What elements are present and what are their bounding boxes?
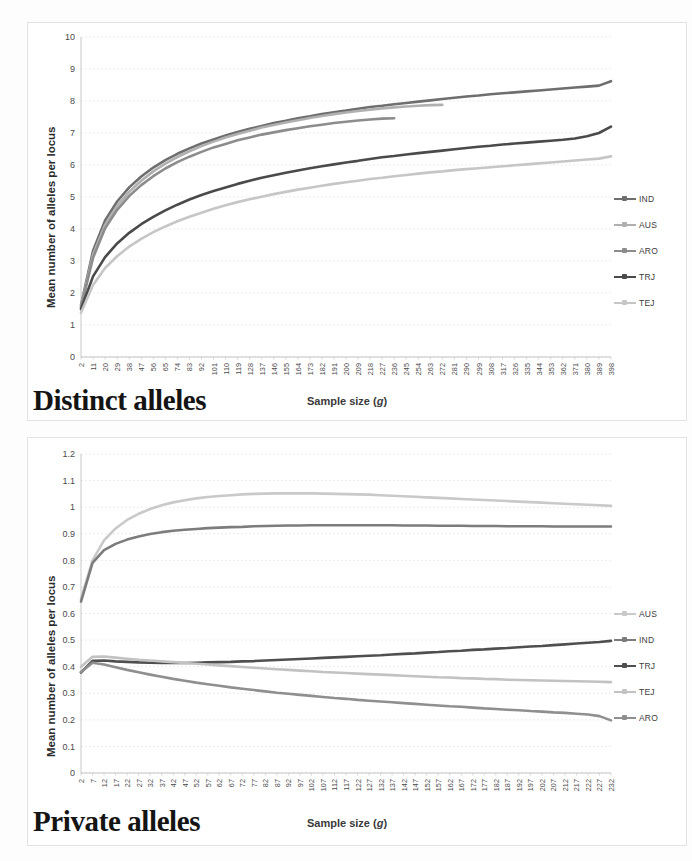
svg-text:5: 5	[70, 192, 75, 202]
svg-text:152: 152	[423, 779, 432, 791]
svg-text:29: 29	[113, 363, 122, 371]
svg-text:7: 7	[70, 128, 75, 138]
chart-private-alleles: 00.10.20.30.40.50.60.70.80.911.11.227121…	[27, 437, 687, 846]
svg-text:67: 67	[227, 779, 236, 787]
svg-text:17: 17	[112, 779, 121, 787]
svg-text:182: 182	[318, 363, 327, 375]
legend-label: TEJ	[639, 687, 655, 697]
svg-text:107: 107	[319, 779, 328, 791]
svg-text:42: 42	[169, 779, 178, 787]
svg-text:52: 52	[192, 779, 201, 787]
svg-text:6: 6	[70, 160, 75, 170]
svg-text:308: 308	[487, 363, 496, 375]
svg-text:202: 202	[538, 779, 547, 791]
svg-text:110: 110	[222, 363, 231, 375]
svg-text:22: 22	[123, 779, 132, 787]
svg-text:172: 172	[469, 779, 478, 791]
legend-label: AUS	[639, 609, 657, 619]
svg-text:0.1: 0.1	[62, 742, 75, 752]
legend-item[interactable]: AUS	[614, 601, 658, 627]
svg-text:0: 0	[70, 352, 75, 362]
svg-text:326: 326	[511, 363, 520, 375]
svg-text:142: 142	[400, 779, 409, 791]
svg-text:56: 56	[149, 363, 158, 371]
y-axis-title-private: Mean number of alleles per locus	[45, 576, 57, 758]
svg-text:0.8: 0.8	[62, 556, 75, 566]
svg-text:117: 117	[342, 779, 351, 791]
svg-text:0.3: 0.3	[62, 688, 75, 698]
legend-line-icon	[614, 635, 636, 645]
svg-text:1.1: 1.1	[62, 476, 75, 486]
svg-text:12: 12	[100, 779, 109, 787]
legend-line-icon	[614, 246, 636, 256]
legend-line-icon	[614, 687, 636, 697]
svg-text:212: 212	[561, 779, 570, 791]
legend-item[interactable]: TEJ	[614, 679, 658, 705]
legend-line-icon	[614, 194, 636, 204]
svg-text:335: 335	[523, 363, 532, 375]
legend-item[interactable]: TRJ	[614, 653, 658, 679]
svg-text:164: 164	[294, 363, 303, 375]
svg-text:299: 299	[475, 363, 484, 375]
svg-text:47: 47	[181, 779, 190, 787]
legend-item[interactable]: ARO	[614, 705, 658, 731]
svg-text:3: 3	[70, 256, 75, 266]
panel-caption-distinct: Distinct alleles	[33, 384, 206, 417]
svg-text:83: 83	[185, 363, 194, 371]
svg-text:0: 0	[70, 768, 75, 778]
svg-text:209: 209	[354, 363, 363, 375]
legend-label: TRJ	[639, 661, 655, 671]
legend-item[interactable]: AUS	[614, 212, 658, 238]
svg-text:10: 10	[65, 32, 75, 42]
svg-text:65: 65	[161, 363, 170, 371]
svg-text:197: 197	[526, 779, 535, 791]
svg-text:227: 227	[595, 779, 604, 791]
x-axis-title-distinct-text: Sample size (g)	[307, 395, 387, 407]
svg-text:74: 74	[173, 363, 182, 371]
legend-item[interactable]: ARO	[614, 238, 658, 264]
svg-text:0.2: 0.2	[62, 715, 75, 725]
chart-distinct-alleles: 0123456789102112029384756657483921011101…	[27, 22, 687, 421]
legend-item[interactable]: IND	[614, 186, 658, 212]
legend-item[interactable]: TRJ	[614, 264, 658, 290]
svg-text:157: 157	[434, 779, 443, 791]
svg-text:272: 272	[438, 363, 447, 375]
svg-text:2: 2	[77, 779, 86, 783]
legend-private: AUS IND TRJ TEJ ARO	[614, 601, 658, 731]
svg-text:192: 192	[515, 779, 524, 791]
svg-text:182: 182	[492, 779, 501, 791]
svg-text:38: 38	[125, 363, 134, 371]
svg-text:11: 11	[89, 363, 98, 371]
svg-text:7: 7	[89, 779, 98, 783]
svg-text:92: 92	[284, 779, 293, 787]
svg-text:0.5: 0.5	[62, 635, 75, 645]
svg-text:132: 132	[377, 779, 386, 791]
svg-text:97: 97	[296, 779, 305, 787]
svg-text:245: 245	[402, 363, 411, 375]
chart-distinct-plot: 0123456789102112029384756657483921011101…	[28, 23, 686, 420]
svg-text:2: 2	[77, 363, 86, 367]
legend-distinct: IND AUS ARO TRJ TEJ	[614, 186, 658, 316]
legend-line-icon	[614, 713, 636, 723]
svg-text:122: 122	[354, 779, 363, 791]
legend-item[interactable]: IND	[614, 627, 658, 653]
y-axis-title-distinct: Mean number of alleles per locus	[45, 127, 57, 309]
legend-line-icon	[614, 609, 636, 619]
svg-text:222: 222	[584, 779, 593, 791]
svg-text:127: 127	[365, 779, 374, 791]
legend-item[interactable]: TEJ	[614, 290, 658, 316]
legend-label: TEJ	[639, 298, 655, 308]
legend-line-icon	[614, 220, 636, 230]
svg-text:87: 87	[273, 779, 282, 787]
svg-text:20: 20	[101, 363, 110, 371]
svg-text:191: 191	[330, 363, 339, 375]
svg-text:4: 4	[70, 224, 75, 234]
svg-text:1: 1	[70, 320, 75, 330]
legend-label: AUS	[639, 220, 657, 230]
svg-text:57: 57	[204, 779, 213, 787]
svg-text:380: 380	[583, 363, 592, 375]
svg-text:236: 236	[390, 363, 399, 375]
svg-text:32: 32	[146, 779, 155, 787]
svg-text:147: 147	[411, 779, 420, 791]
legend-label: ARO	[639, 246, 658, 256]
